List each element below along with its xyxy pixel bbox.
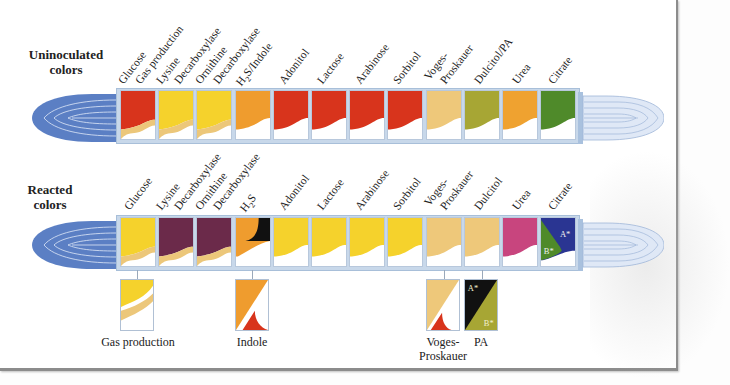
compartment-voges-proskauer — [426, 217, 462, 267]
compartment-glucose-gas-production — [120, 90, 156, 140]
compartment-lactose — [311, 90, 347, 140]
compartment-adonitol — [273, 90, 309, 140]
detail-gas-production — [120, 279, 154, 331]
compartment-urea — [502, 90, 538, 140]
compartment-arabinose — [349, 217, 385, 267]
compartment-citrate — [540, 90, 576, 140]
label-line: Proskauer — [403, 349, 483, 363]
compartment-adonitol — [273, 217, 309, 267]
tube-right-cap-icon — [578, 219, 664, 271]
compartment-sorbitol — [387, 90, 423, 140]
tube-left-cap-icon — [32, 219, 118, 271]
compartment-citrate: A*B* — [540, 217, 576, 267]
compartment-arabinose — [349, 90, 385, 140]
compartment-h2s-indole — [235, 90, 271, 140]
svg-text:B*: B* — [544, 246, 554, 256]
compartment-lysine-decarboxylase — [158, 90, 194, 140]
compartment-h2s — [235, 217, 271, 267]
tube-right-cap-icon — [578, 92, 664, 144]
detail-label-pa: PA — [451, 335, 511, 349]
svg-text:A*: A* — [468, 282, 478, 292]
connector-line — [482, 270, 483, 279]
detail-label-indole: Indole — [212, 335, 292, 349]
compartment-glucose — [120, 217, 156, 267]
svg-text:A*: A* — [560, 229, 570, 239]
compartment-voges-proskauer — [426, 90, 462, 140]
row-title-line: Uninoculated — [16, 47, 116, 62]
row-title-reacted: Reacted colors — [0, 182, 100, 212]
row-title-line: colors — [16, 62, 116, 77]
detail-label-gas-production: Gas production — [88, 335, 188, 349]
connector-line — [252, 270, 253, 279]
row-title-uninoculated: Uninoculated colors — [16, 47, 116, 77]
detail-voges-proskauer — [426, 279, 460, 331]
compartment-dulcitol — [464, 217, 500, 267]
connector-line — [444, 270, 445, 279]
row-title-line: Reacted — [0, 182, 100, 197]
compartment-lysine-decarboxylase — [158, 217, 194, 267]
detail-pa: A* B* — [464, 279, 498, 331]
detail-indole — [235, 279, 269, 331]
svg-text:B*: B* — [484, 318, 494, 328]
compartment-dulcitol-pa — [464, 90, 500, 140]
connector-line — [137, 270, 138, 279]
compartment-sorbitol — [387, 217, 423, 267]
compartment-urea — [502, 217, 538, 267]
compartment-ornithine-decarboxylase — [196, 217, 232, 267]
tube-left-cap-icon — [32, 92, 118, 144]
row-title-line: colors — [0, 197, 100, 212]
compartment-lactose — [311, 217, 347, 267]
compartment-ornithine-decarboxylase — [196, 90, 232, 140]
